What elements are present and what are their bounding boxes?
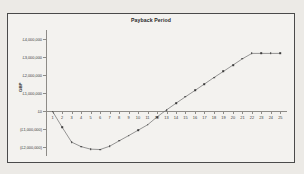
data-point-marker <box>280 53 282 55</box>
data-point-marker <box>156 116 158 118</box>
data-point-marker <box>80 146 82 148</box>
data-point-marker <box>242 58 244 60</box>
data-point-marker <box>223 71 225 73</box>
data-point-marker <box>128 135 130 137</box>
chart-title: Payback Period <box>8 17 294 23</box>
data-point-marker <box>175 102 177 104</box>
data-point-marker <box>185 96 187 98</box>
data-point-marker <box>52 111 54 113</box>
y-axis-label: £1,000,000 <box>23 91 42 96</box>
data-point-marker <box>194 90 196 92</box>
data-point-marker <box>166 109 168 111</box>
data-point-marker <box>99 149 101 151</box>
data-point-marker <box>147 124 149 126</box>
data-point-marker <box>109 145 111 147</box>
plot-area: £4,000,000£3,000,000£2,000,000£1,000,000… <box>46 30 287 156</box>
data-point-marker <box>204 83 206 85</box>
y-axis-label: £2,000,000 <box>23 73 42 78</box>
data-point-marker <box>90 148 92 150</box>
data-point-marker <box>61 126 63 128</box>
data-point-marker <box>261 53 263 55</box>
data-point-marker <box>251 53 253 55</box>
series-path <box>53 53 281 149</box>
y-axis-label: £4,000,000 <box>23 37 42 42</box>
data-point-marker <box>213 77 215 79</box>
data-point-marker <box>270 53 272 55</box>
series-line <box>46 30 287 156</box>
chart-frame: Payback Period GBP £4,000,000£3,000,000£… <box>7 13 295 163</box>
y-axis-label: (£1,000,000) <box>20 127 42 132</box>
scanned-page-background: Payback Period GBP £4,000,000£3,000,000£… <box>0 0 304 174</box>
data-point-marker <box>232 64 234 66</box>
data-point-marker <box>71 141 73 143</box>
data-point-marker <box>137 129 139 131</box>
y-axis-label: £3,000,000 <box>23 55 42 60</box>
y-axis-label: (£2,000,000) <box>20 145 42 150</box>
y-axis-label: £0 <box>38 109 42 114</box>
data-point-marker <box>118 140 120 142</box>
